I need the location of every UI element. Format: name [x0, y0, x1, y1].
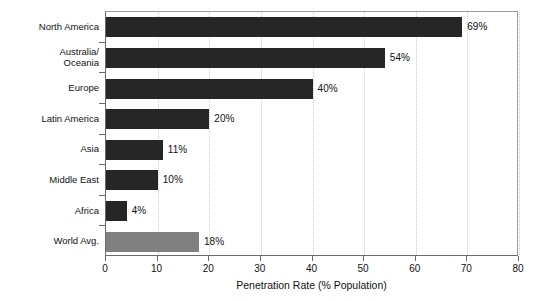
x-axis-tick [157, 256, 158, 261]
category-label: Africa [0, 205, 99, 216]
x-axis-tick [415, 256, 416, 261]
bar-value-label: 54% [390, 53, 410, 63]
x-axis-tick [105, 256, 106, 261]
gridline [519, 12, 520, 255]
x-axis-tick [363, 256, 364, 261]
bar-row: 69% [106, 17, 517, 37]
category-label: North America [0, 21, 99, 32]
bar-row: 11% [106, 140, 517, 160]
x-axis-tick-label: 80 [512, 263, 523, 275]
bar [106, 140, 163, 160]
penetration-rate-bar-chart: North AmericaAustralia/ OceaniaEuropeLat… [0, 0, 542, 301]
bar-row: 10% [106, 170, 517, 190]
x-axis-tick [466, 256, 467, 261]
bar-value-label: 40% [318, 84, 338, 94]
x-axis-tick [312, 256, 313, 261]
bar-value-label: 4% [132, 206, 147, 216]
bar-value-label: 69% [467, 22, 487, 32]
bar-value-label: 11% [168, 145, 188, 155]
bar-row: 20% [106, 109, 517, 129]
bars-layer: 69%54%40%20%11%10%4%18% [106, 12, 517, 255]
x-axis-tick [518, 256, 519, 261]
bar [106, 109, 209, 129]
bar [106, 201, 127, 221]
bar [106, 79, 313, 99]
category-label: World Avg. [0, 235, 99, 246]
plot-area: 69%54%40%20%11%10%4%18% [105, 11, 518, 256]
category-label: Latin America [0, 113, 99, 124]
bar-value-label: 20% [214, 114, 234, 124]
bar [106, 170, 158, 190]
category-label: Australia/ Oceania [0, 46, 99, 68]
x-axis-tick-label: 60 [409, 263, 420, 275]
x-axis-tick-label: 70 [461, 263, 472, 275]
x-axis-tick-label: 30 [254, 263, 265, 275]
bar-row: 4% [106, 201, 517, 221]
x-axis-tick-label: 20 [203, 263, 214, 275]
bar-value-label: 18% [204, 237, 224, 247]
x-axis-tick-label: 50 [358, 263, 369, 275]
bar [106, 232, 199, 252]
x-axis-title: Penetration Rate (% Population) [105, 279, 518, 292]
x-axis-tick-label: 0 [102, 263, 108, 275]
category-label: Middle East [0, 174, 99, 185]
bar-value-label: 10% [163, 175, 183, 185]
x-axis-tick-label: 10 [151, 263, 162, 275]
bar-row: 18% [106, 232, 517, 252]
bar-row: 40% [106, 79, 517, 99]
x-axis-tick [260, 256, 261, 261]
x-axis-tick [208, 256, 209, 261]
x-axis-tick-label: 40 [306, 263, 317, 275]
bar-row: 54% [106, 48, 517, 68]
bar [106, 17, 462, 37]
category-label: Asia [0, 143, 99, 154]
category-label: Europe [0, 82, 99, 93]
bar [106, 48, 385, 68]
